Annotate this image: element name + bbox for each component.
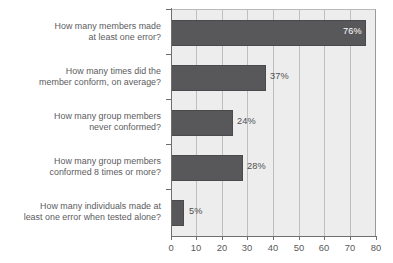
x-tick-label-10: 10: [184, 242, 208, 253]
category-label-3-line-1: conformed 8 times or more?: [0, 167, 161, 178]
x-tick-label-60: 60: [312, 242, 336, 253]
x-tick-label-80: 80: [364, 242, 388, 253]
y-tick-2: [166, 99, 171, 100]
x-tick-label-70: 70: [338, 242, 362, 253]
category-axis-labels: How many members made at least one error…: [0, 9, 166, 236]
y-tick-1: [166, 54, 171, 55]
y-tick-0: [166, 9, 171, 10]
category-label-1: How many times did the member conform, o…: [0, 66, 161, 88]
bar-value-1: 37%: [270, 71, 289, 81]
category-label-3-line-0: How many group members: [0, 156, 161, 167]
category-label-1-line-1: member conform, on average?: [0, 77, 161, 88]
plot-area: [171, 9, 376, 236]
category-label-4-line-1: least one error when tested alone?: [0, 212, 161, 223]
bar-4: [171, 200, 184, 226]
bar-chart: How many members made at least one error…: [0, 0, 393, 263]
x-tick-20: [222, 236, 223, 240]
bar-3: [171, 155, 243, 181]
x-tick-60: [324, 236, 325, 240]
x-tick-label-40: 40: [261, 242, 285, 253]
category-label-2: How many group members never conformed?: [0, 111, 161, 133]
x-tick-40: [273, 236, 274, 240]
bar-1: [171, 65, 266, 91]
bar-value-3: 28%: [247, 161, 266, 171]
bar-value-0: 76%: [343, 26, 362, 36]
bar-value-2: 24%: [237, 116, 256, 126]
category-label-3: How many group members conformed 8 times…: [0, 156, 161, 178]
y-tick-3: [166, 144, 171, 145]
category-label-4-line-0: How many individuals made at: [0, 201, 161, 212]
y-axis-line: [171, 8, 172, 237]
x-tick-30: [247, 236, 248, 240]
category-label-0-line-0: How many members made: [0, 21, 161, 32]
x-tick-10: [196, 236, 197, 240]
x-tick-70: [350, 236, 351, 240]
x-tick-label-50: 50: [287, 242, 311, 253]
x-tick-0: [171, 236, 172, 240]
category-label-0-line-1: at least one error?: [0, 32, 161, 43]
category-label-2-line-1: never conformed?: [0, 122, 161, 133]
category-label-0: How many members made at least one error…: [0, 21, 161, 43]
x-axis-line: [171, 236, 377, 237]
category-label-1-line-0: How many times did the: [0, 66, 161, 77]
x-tick-label-30: 30: [235, 242, 259, 253]
category-label-4: How many individuals made at least one e…: [0, 201, 161, 223]
category-label-2-line-0: How many group members: [0, 111, 161, 122]
y-tick-4: [166, 189, 171, 190]
bar-0: [171, 20, 366, 46]
bar-value-4: 5%: [189, 206, 202, 216]
x-tick-label-0: 0: [159, 242, 183, 253]
x-tick-50: [299, 236, 300, 240]
x-tick-80: [376, 236, 377, 240]
bar-2: [171, 110, 233, 136]
x-tick-label-20: 20: [210, 242, 234, 253]
